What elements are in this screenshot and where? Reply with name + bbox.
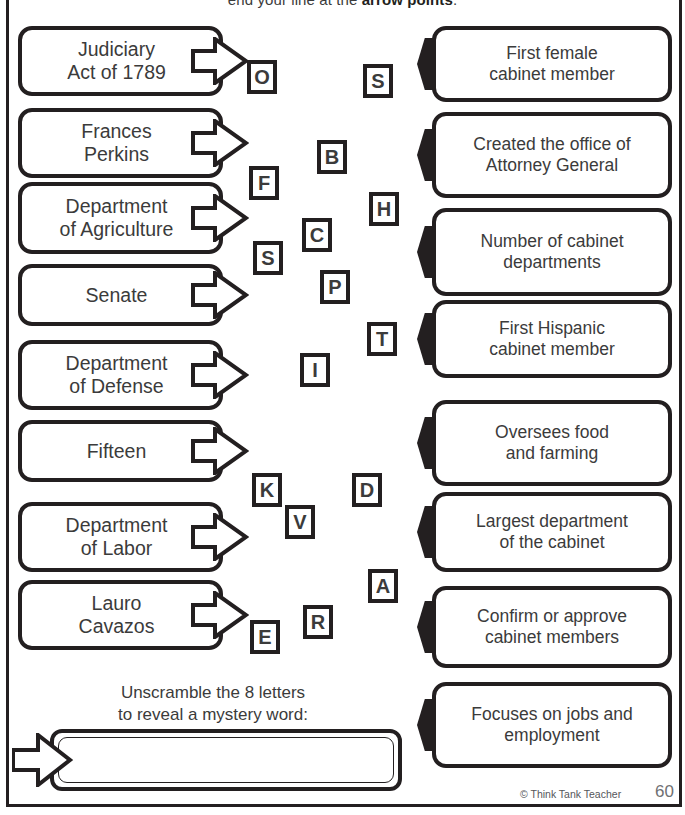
clue-card-line2: cabinet members xyxy=(477,627,627,648)
letter-tile[interactable]: H xyxy=(369,192,399,226)
term-card[interactable]: Senate xyxy=(18,264,223,326)
term-card-line1: Judiciary xyxy=(67,38,166,61)
clue-card-line1: Created the office of xyxy=(473,134,630,155)
letter-tile[interactable]: F xyxy=(249,166,279,200)
term-card-line1: Department xyxy=(66,352,168,375)
clue-card-line2: Attorney General xyxy=(473,155,630,176)
letter-tile[interactable]: I xyxy=(300,353,330,387)
term-card-line2: Act of 1789 xyxy=(67,61,166,84)
term-card-line2: Perkins xyxy=(81,143,151,166)
clue-card-line1: Focuses on jobs and xyxy=(471,704,633,725)
instruction-text-plain: end your line at the xyxy=(228,0,362,8)
clue-card-line2: of the cabinet xyxy=(476,532,628,553)
term-card-line2: Cavazos xyxy=(79,615,155,638)
clue-card-line1: Number of cabinet xyxy=(481,231,624,252)
term-card-line1: Lauro xyxy=(79,592,155,615)
term-card[interactable]: JudiciaryAct of 1789 xyxy=(18,26,223,96)
worksheet-page: end your line at the arrow points. Judic… xyxy=(0,0,685,815)
clue-card[interactable]: First Hispaniccabinet member xyxy=(432,300,672,378)
mystery-word-answer[interactable] xyxy=(12,729,402,791)
term-card[interactable]: Departmentof Labor xyxy=(18,502,223,572)
clue-card[interactable]: Oversees foodand farming xyxy=(432,400,672,486)
letter-tile[interactable]: O xyxy=(247,60,277,94)
instruction-text-bold: arrow points xyxy=(362,0,453,8)
clue-card[interactable]: Largest departmentof the cabinet xyxy=(432,492,672,572)
term-card[interactable]: LauroCavazos xyxy=(18,580,223,650)
letter-tile[interactable]: C xyxy=(302,218,332,252)
instruction-text-end: . xyxy=(453,0,457,8)
term-card[interactable]: Departmentof Agriculture xyxy=(18,182,223,254)
letter-tile[interactable]: R xyxy=(303,605,333,639)
clue-card-line2: cabinet member xyxy=(489,339,614,360)
letter-tile[interactable]: B xyxy=(317,140,347,174)
clue-card-line1: First female xyxy=(489,43,614,64)
clue-card-line1: Oversees food xyxy=(495,422,609,443)
page-border-bottom xyxy=(6,804,682,807)
letter-tile[interactable]: S xyxy=(253,241,283,275)
term-card[interactable]: Fifteen xyxy=(18,420,223,482)
clue-card[interactable]: Focuses on jobs andemployment xyxy=(432,682,672,768)
clue-card-line2: and farming xyxy=(495,443,609,464)
clue-card[interactable]: Created the office ofAttorney General xyxy=(432,112,672,198)
term-card-line1: Department xyxy=(60,195,174,218)
copyright-credit: © Think Tank Teacher xyxy=(520,788,621,800)
letter-tile[interactable]: T xyxy=(367,322,397,356)
clue-card-line2: departments xyxy=(481,252,624,273)
clue-card-line2: employment xyxy=(471,725,633,746)
page-border-left xyxy=(6,0,9,807)
unscramble-prompt-line1: Unscramble the 8 letters xyxy=(18,682,408,704)
letter-tile[interactable]: S xyxy=(363,64,393,98)
clue-card-line2: cabinet member xyxy=(489,64,614,85)
letter-tile[interactable]: P xyxy=(320,270,350,304)
unscramble-prompt: Unscramble the 8 letters to reveal a mys… xyxy=(18,682,408,726)
clue-card[interactable]: Number of cabinetdepartments xyxy=(432,208,672,296)
page-border-right xyxy=(679,0,682,807)
answer-arrow-icon xyxy=(12,733,74,787)
letter-tile[interactable]: K xyxy=(252,473,282,507)
letter-tile[interactable]: A xyxy=(368,569,398,603)
term-card-line2: of Labor xyxy=(66,537,168,560)
term-card[interactable]: FrancesPerkins xyxy=(18,108,223,178)
term-card-line2: of Agriculture xyxy=(60,218,174,241)
instruction-text: end your line at the arrow points. xyxy=(0,0,685,9)
term-card-line1: Senate xyxy=(86,284,148,307)
letter-tile[interactable]: D xyxy=(352,473,382,507)
page-number: 60 xyxy=(655,782,674,802)
term-card-line2: of Defense xyxy=(66,375,168,398)
clue-card-line1: Confirm or approve xyxy=(477,606,627,627)
letter-tile[interactable]: V xyxy=(285,505,315,539)
mystery-word-input-inner-border xyxy=(58,737,394,783)
mystery-word-input[interactable] xyxy=(50,729,402,791)
term-card-line1: Department xyxy=(66,514,168,537)
clue-card-line1: Largest department xyxy=(476,511,628,532)
clue-card-line1: First Hispanic xyxy=(489,318,614,339)
unscramble-prompt-line2: to reveal a mystery word: xyxy=(18,704,408,726)
term-card-line1: Frances xyxy=(81,120,151,143)
clue-card[interactable]: First femalecabinet member xyxy=(432,26,672,102)
term-card-line1: Fifteen xyxy=(87,440,147,463)
letter-tile[interactable]: E xyxy=(250,620,280,654)
clue-card[interactable]: Confirm or approvecabinet members xyxy=(432,586,672,668)
term-card[interactable]: Departmentof Defense xyxy=(18,340,223,410)
